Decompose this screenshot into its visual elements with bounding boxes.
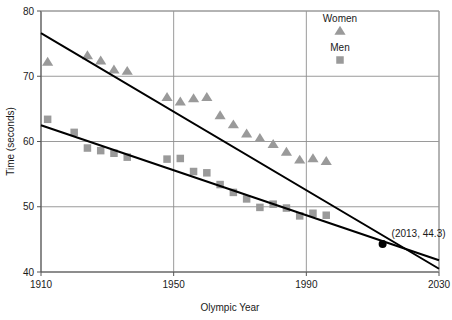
x-tick-label-2030: 2030 [428, 279, 451, 290]
x-axis-title: Olympic Year [201, 302, 261, 313]
x-tick-label-1950: 1950 [163, 279, 186, 290]
y-tick-label-70: 70 [23, 71, 35, 82]
data-point-men-1976 [256, 204, 264, 212]
intersection-point-marker [379, 240, 387, 248]
legend-label-men: Men [330, 42, 349, 53]
data-point-men-1960 [203, 169, 211, 177]
y-axis-title: Time (seconds) [5, 107, 16, 176]
intersection-annotation-label: (2013, 44.3) [392, 228, 446, 239]
data-point-men-1928 [97, 147, 105, 155]
olympic-times-scatter-chart: 40506070801910195019902030Olympic YearTi… [0, 0, 452, 320]
chart-container: 40506070801910195019902030Olympic YearTi… [0, 0, 452, 320]
x-tick-label-1910: 1910 [30, 279, 53, 290]
x-tick-label-1990: 1990 [295, 279, 318, 290]
legend-marker-men-square-icon [336, 56, 344, 64]
y-tick-label-50: 50 [23, 201, 35, 212]
data-point-men-1956 [190, 168, 198, 176]
data-point-men-1952 [177, 155, 185, 163]
data-point-men-1996 [322, 211, 330, 219]
data-point-men-1912 [44, 116, 52, 124]
y-tick-label-40: 40 [23, 267, 35, 278]
data-point-men-1948 [163, 155, 171, 163]
legend-label-women: Women [323, 13, 357, 24]
y-tick-label-60: 60 [23, 136, 35, 147]
y-tick-label-80: 80 [23, 6, 35, 17]
data-point-men-1924 [84, 144, 92, 152]
